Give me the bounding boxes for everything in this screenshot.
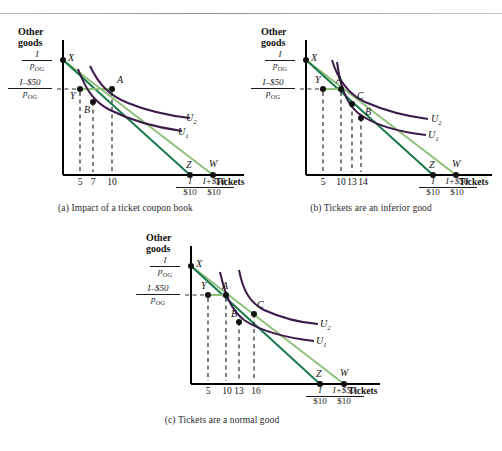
panel-b-xtick-13: 13 xyxy=(347,177,357,187)
panel-a-caption: (a) Impact of a ticket coupon book xyxy=(0,203,251,213)
panel-c-y-tick-top: I pOG xyxy=(150,256,180,279)
panel-c-xtick-5: 5 xyxy=(206,386,211,396)
panel-b-label-X: X xyxy=(311,52,317,63)
panel-c-y-tick-top-den-sub: OG xyxy=(162,270,172,277)
panel-c-xtick-16: 16 xyxy=(251,386,261,396)
panel-b-label-B: B xyxy=(365,106,371,117)
panel-c-tickets-normal-good: Other goods I pOG I–$50 pOG xyxy=(122,228,392,438)
panel-c-point-B xyxy=(236,319,242,325)
panel-c-u1-sub: 1 xyxy=(323,341,326,348)
panel-b-caption: (b) Tickets are an inferior good xyxy=(240,203,502,213)
panel-a-y-tick-top-den: pOG xyxy=(22,61,52,73)
panel-b-y-tick-mid-num: I–$50 xyxy=(251,78,295,89)
panel-a-y-tick-top: I pOG xyxy=(22,50,52,73)
panel-b-xtick-W-den: $10 xyxy=(437,188,477,198)
panel-c-y-tick-mid-den: pOG xyxy=(136,295,180,307)
panel-c-label-W: W xyxy=(340,367,348,378)
panel-b-point-X xyxy=(303,57,309,63)
panel-c-point-C xyxy=(251,311,257,317)
panel-a-y-tick-top-num: I xyxy=(22,50,52,61)
page-top-rule xyxy=(0,13,502,14)
panel-a-point-A xyxy=(109,86,115,92)
panel-b-xtick-14: 14 xyxy=(358,177,368,187)
panel-a-xtick-W-den: $10 xyxy=(194,188,234,198)
panel-c-y-tick-mid-num: I–$50 xyxy=(136,284,180,295)
panel-c-point-A xyxy=(223,292,229,298)
panel-a-curve-label-u2: U2 xyxy=(186,112,197,125)
panel-b-xtick-5: 5 xyxy=(321,177,326,187)
panel-b-label-C: C xyxy=(357,90,364,101)
panel-a-label-Z: Z xyxy=(186,159,192,170)
panel-c-indifference-curve-u2 xyxy=(239,270,318,324)
panel-a-y-tick-mid-den-sub: OG xyxy=(27,92,37,99)
panel-a-label-X: X xyxy=(68,52,74,63)
panel-b-label-W: W xyxy=(452,158,460,169)
panel-a-u2-sub: 2 xyxy=(193,118,196,125)
panel-c-label-C: C xyxy=(257,299,264,310)
panel-c-label-Z: Z xyxy=(316,368,322,379)
panel-c-y-tick-mid: I–$50 pOG xyxy=(136,284,180,307)
panel-a-impact-of-ticket-coupon-book: Other goods I pOG I–$50 pOG xyxy=(0,22,251,222)
panel-b-xtick-10: 10 xyxy=(336,177,346,187)
panel-c-point-Y xyxy=(205,292,211,298)
panel-a-y-axis-title: Other goods xyxy=(18,26,44,48)
panel-a-xtick-10: 10 xyxy=(107,177,117,187)
panel-a-y-tick-top-den-sub: OG xyxy=(34,64,44,71)
panel-c-caption: (c) Tickets are a normal good xyxy=(62,415,382,425)
panel-a-y-tick-mid-den: pOG xyxy=(8,89,52,101)
panel-b-point-A xyxy=(338,86,344,92)
panel-c-xtick-10: 10 xyxy=(222,386,232,396)
panel-a-curve-label-u1: U1 xyxy=(178,126,189,139)
panel-b-point-B xyxy=(358,115,364,121)
panel-a-point-Y xyxy=(77,86,83,92)
panel-b-y-tick-mid-den-sub: OG xyxy=(270,92,280,99)
panel-a-label-Y: Y xyxy=(70,90,76,101)
panel-c-label-B: B xyxy=(231,308,237,319)
panel-b-point-C xyxy=(349,101,355,107)
panel-a-xtick-5: 5 xyxy=(78,177,83,187)
panel-a-point-X xyxy=(60,57,66,63)
panel-c-y-tick-top-den: pOG xyxy=(150,267,180,279)
panel-b-y-tick-top-num: I xyxy=(265,50,295,61)
panel-c-x-axis-title: Tickets xyxy=(348,386,377,396)
panel-c-y-tick-mid-den-sub: OG xyxy=(155,298,165,305)
panel-c-xtick-13: 13 xyxy=(234,386,244,396)
panel-c-u2-sub: 2 xyxy=(327,324,330,331)
panel-c-y-tick-top-num: I xyxy=(150,256,180,267)
panel-c-y-axis-title-line1: Other xyxy=(146,232,172,243)
panel-a-y-axis-title-line1: Other xyxy=(18,26,44,37)
panel-a-y-axis-title-line2: goods xyxy=(18,37,42,48)
panel-c-xtick-W-den: $10 xyxy=(324,397,364,407)
panel-b-y-tick-top: I pOG xyxy=(265,50,295,73)
panel-b-y-tick-top-den-sub: OG xyxy=(277,64,287,71)
panel-c-label-A: A xyxy=(222,280,228,291)
panel-b-curve-label-u1: U1 xyxy=(428,129,439,142)
panel-b-y-tick-top-den: pOG xyxy=(265,61,295,73)
panel-a-label-A: A xyxy=(117,74,123,85)
panel-b-tickets-inferior-good: Other goods I pOG I–$50 pOG xyxy=(240,22,502,222)
panel-c-budget-line-initial xyxy=(191,266,320,384)
panel-c-label-X: X xyxy=(196,258,202,269)
panel-b-label-A: A xyxy=(336,74,342,85)
panel-c-label-Y: Y xyxy=(201,280,207,291)
figure-page: Other goods I pOG I–$50 pOG xyxy=(0,0,502,451)
panel-a-y-tick-mid: I–$50 pOG xyxy=(8,78,52,101)
panel-b-y-tick-mid-den: pOG xyxy=(251,89,295,101)
panel-b-label-Z: Z xyxy=(429,159,435,170)
panel-b-y-axis-title-line1: Other xyxy=(261,26,287,37)
panel-a-u1-sub: 1 xyxy=(185,132,188,139)
panel-b-y-axis-title-line2: goods xyxy=(261,37,285,48)
panel-b-y-axis-title: Other goods xyxy=(261,26,287,48)
panel-b-curve-label-u2: U2 xyxy=(431,113,442,126)
panel-c-curve-label-u2: U2 xyxy=(320,318,331,331)
panel-b-x-axis-title: Tickets xyxy=(459,177,488,187)
panel-b-label-Y: Y xyxy=(315,74,321,85)
panel-b-indifference-curve-u2 xyxy=(332,60,428,119)
panel-a-label-B: B xyxy=(84,104,90,115)
panel-a-point-B xyxy=(90,99,96,105)
panel-b-u1-sub: 1 xyxy=(435,135,438,142)
panel-a-xtick-7: 7 xyxy=(91,177,96,187)
panel-c-y-axis-title-line2: goods xyxy=(146,243,170,254)
panel-b-point-Y xyxy=(320,86,326,92)
panel-c-point-X xyxy=(188,263,194,269)
